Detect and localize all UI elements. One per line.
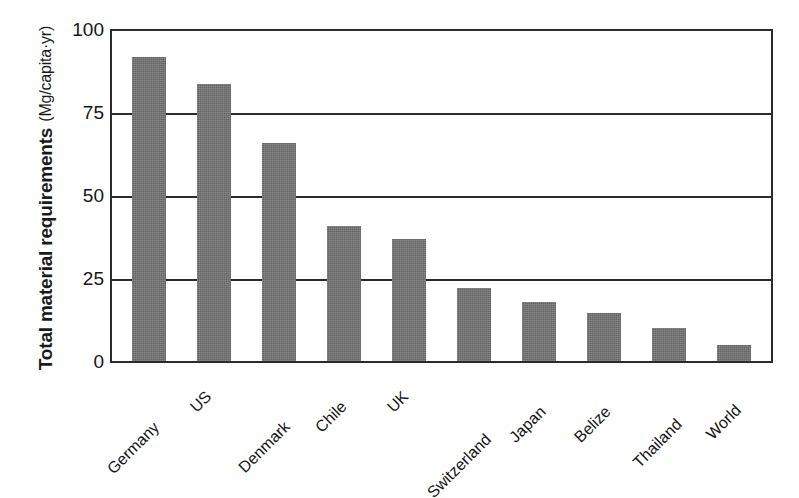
cat-slot-0: Germany (114, 366, 180, 496)
cat-slot-2: Denmark (245, 366, 311, 496)
cat-slot-9: World (704, 366, 770, 496)
x-label-us-text: US (187, 388, 215, 416)
cat-slot-1: US (180, 366, 246, 496)
y-tick-50: 50 (58, 186, 104, 205)
y-tick-0: 0 (58, 352, 104, 371)
bars-container (112, 31, 771, 361)
x-label-thailand-text: Thailand (629, 415, 685, 471)
cat-slot-7: Belize (573, 366, 639, 496)
x-label-us: US (203, 372, 231, 400)
x-label-chile-text: Chile (312, 398, 351, 437)
y-axis-tick-labels: 100 75 50 25 0 (50, 0, 104, 498)
bar-japan[interactable] (522, 302, 556, 361)
bar-denmark[interactable] (262, 143, 296, 361)
cat-slot-4: UK (376, 366, 442, 496)
bar-slot-germany (116, 31, 181, 361)
x-label-world-text: World (703, 401, 745, 443)
cat-slot-3: Chile (311, 366, 377, 496)
y-tick-25: 25 (58, 269, 104, 288)
cat-slot-8: Thailand (638, 366, 704, 496)
bar-us[interactable] (197, 84, 231, 361)
bar-thailand[interactable] (652, 328, 686, 361)
bar-switzerland[interactable] (457, 288, 491, 361)
bar-world[interactable] (717, 345, 751, 362)
x-label-world: World (732, 372, 774, 414)
bar-slot-world (702, 31, 767, 361)
bar-slot-uk (376, 31, 441, 361)
x-label-germany-text: Germany (103, 419, 162, 478)
bar-chart-figure: Total material requirements (Mg/capita·y… (0, 0, 799, 498)
y-tick-75: 75 (58, 103, 104, 122)
x-label-uk: UK (399, 372, 427, 400)
x-label-japan-text: Japan (506, 403, 550, 447)
bar-germany[interactable] (132, 57, 166, 361)
cat-slot-5: Switzerland (442, 366, 508, 496)
bar-slot-belize (572, 31, 637, 361)
x-label-belize-text: Belize (571, 403, 615, 447)
x-label-chile: Chile (338, 372, 377, 411)
x-label-uk-text: UK (384, 388, 412, 416)
bar-slot-chile (311, 31, 376, 361)
bar-slot-thailand (637, 31, 702, 361)
cat-slot-6: Japan (507, 366, 573, 496)
bar-slot-us (181, 31, 246, 361)
x-axis-category-labels: Germany US Denmark Chile UK Switzerland … (110, 366, 773, 496)
y-tick-100: 100 (58, 20, 104, 39)
bar-slot-japan (507, 31, 572, 361)
bar-slot-denmark (246, 31, 311, 361)
bar-chile[interactable] (327, 226, 361, 361)
plot-area (110, 29, 773, 363)
bar-slot-switzerland (441, 31, 506, 361)
bar-belize[interactable] (587, 313, 621, 361)
bar-uk[interactable] (392, 239, 426, 361)
